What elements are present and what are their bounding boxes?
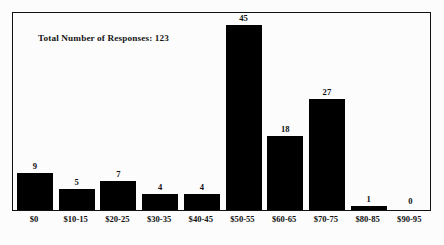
bar (267, 136, 303, 210)
bar-value-label: 4 (180, 182, 224, 192)
bar-series: 9574445182710 (13, 13, 430, 210)
bar-slot: 1 (347, 13, 389, 210)
chart-screenshot: Total Number of Responses: 123 957444518… (0, 0, 444, 245)
bar (59, 189, 95, 210)
bar (142, 194, 178, 210)
x-axis-tick-label: $40-45 (179, 214, 223, 224)
x-axis-tick-label: $60-65 (262, 214, 306, 224)
x-axis-tick-label: $10-15 (54, 214, 98, 224)
bar-slot: 18 (263, 13, 305, 210)
x-axis-tick-label: $70-75 (304, 214, 348, 224)
bar-value-label: 7 (96, 169, 140, 179)
x-axis-tick-labels: $0$10-15$20-25$30-35$40-45$50-55$60-65$7… (13, 214, 430, 230)
bar-value-label: 9 (13, 161, 57, 171)
bar-slot: 0 (388, 13, 430, 210)
bar-slot: 9 (13, 13, 55, 210)
bar (351, 206, 387, 210)
bar-slot: 45 (222, 13, 264, 210)
bar-value-label: 0 (388, 196, 432, 206)
x-axis-tick-label: $90-95 (387, 214, 431, 224)
x-axis-tick-label: $0 (12, 214, 56, 224)
bar-value-label: 4 (138, 182, 182, 192)
bar-slot: 4 (138, 13, 180, 210)
bar (100, 181, 136, 210)
bar-value-label: 45 (222, 13, 266, 23)
x-axis-tick-label: $50-55 (221, 214, 265, 224)
bar-slot: 5 (55, 13, 97, 210)
bar (226, 25, 262, 210)
bar-value-label: 5 (55, 177, 99, 187)
bar (184, 194, 220, 210)
x-axis-tick-label: $30-35 (137, 214, 181, 224)
bar-value-label: 1 (347, 194, 391, 204)
bar-slot: 27 (305, 13, 347, 210)
bar-value-label: 27 (305, 87, 349, 97)
bar-slot: 7 (96, 13, 138, 210)
x-axis-tick-label: $20-25 (95, 214, 139, 224)
bar (309, 99, 345, 210)
bar (17, 173, 53, 210)
bar-slot: 4 (180, 13, 222, 210)
bar-value-label: 18 (263, 124, 307, 134)
x-axis-tick-label: $80-85 (346, 214, 390, 224)
